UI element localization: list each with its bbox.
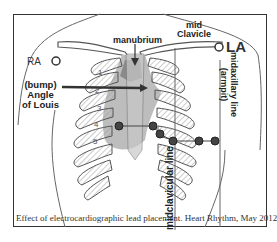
v4-electrode	[169, 137, 177, 145]
la-electrode	[215, 43, 223, 51]
rib-number-5: 5	[93, 137, 97, 146]
v2-electrode	[149, 122, 157, 130]
angle-of-louis-pointer	[62, 87, 140, 88]
rib-number-3: 3	[97, 104, 101, 113]
angle-of-louis-label: (bump) Angle of Louis	[22, 80, 59, 110]
midaxillary-line-label: midaxillary line (armpit)	[219, 52, 239, 117]
ra-electrode	[52, 57, 60, 65]
v3-electrode	[156, 130, 164, 138]
mid-clavicle-label: mid Clavicle	[177, 21, 211, 39]
rib-number-4: 4	[94, 120, 98, 129]
ra-label: RA	[27, 57, 41, 67]
v1-electrode	[115, 122, 123, 130]
manubrium-label: manubrium	[113, 36, 162, 45]
rib-number-2: 2	[95, 86, 99, 95]
figure-caption: Effect of electrocardiographic lead plac…	[16, 213, 277, 223]
v6-electrode	[211, 137, 219, 145]
v5-electrode	[195, 137, 203, 145]
rib-number-1: 1	[98, 68, 102, 77]
